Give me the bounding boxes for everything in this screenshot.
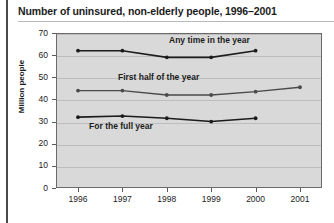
- y-tick-label: 30: [22, 116, 48, 126]
- chart-title: Number of uninsured, non-elderly people,…: [18, 5, 277, 17]
- y-tick-mark: [52, 144, 56, 145]
- x-tick-label: 1999: [191, 194, 231, 204]
- y-tick-label: 0: [22, 183, 48, 193]
- series-label: Any time in the year: [169, 35, 250, 45]
- series-data-point: [209, 93, 213, 97]
- y-tick-label: 50: [22, 72, 48, 82]
- series-data-point: [165, 55, 169, 59]
- series-data-point: [209, 120, 213, 124]
- x-tick-mark: [78, 188, 79, 192]
- x-tick-mark: [211, 188, 212, 192]
- series-data-point: [165, 116, 169, 120]
- series-lines-layer: [56, 33, 322, 188]
- y-tick-mark: [52, 99, 56, 100]
- title-divider: [18, 21, 334, 22]
- series-label: First half of the year: [118, 72, 199, 82]
- y-tick-label: 70: [22, 28, 48, 38]
- x-tick-label: 1997: [102, 194, 142, 204]
- left-margin-rule: [6, 0, 8, 223]
- x-tick-label: 1996: [58, 194, 98, 204]
- series-data-point: [254, 116, 258, 120]
- y-tick-label: 20: [22, 138, 48, 148]
- series-data-point: [165, 93, 169, 97]
- x-tick-mark: [300, 188, 301, 192]
- x-tick-mark: [167, 188, 168, 192]
- series-data-point: [76, 89, 80, 93]
- series-data-point: [121, 114, 125, 118]
- x-tick-mark: [256, 188, 257, 192]
- series-data-point: [76, 49, 80, 53]
- y-tick-mark: [52, 122, 56, 123]
- y-tick-mark: [52, 77, 56, 78]
- x-tick-label: 2000: [236, 194, 276, 204]
- y-tick-mark: [52, 188, 56, 189]
- series-data-point: [209, 55, 213, 59]
- series-data-point: [76, 115, 80, 119]
- series-label: For the full year: [89, 121, 153, 131]
- y-tick-label: 60: [22, 50, 48, 60]
- series-data-point: [121, 49, 125, 53]
- series-data-point: [121, 89, 125, 93]
- chart-figure: Number of uninsured, non-elderly people,…: [0, 0, 334, 223]
- series-data-point: [254, 90, 258, 94]
- x-tick-label: 2001: [280, 194, 320, 204]
- x-tick-mark: [122, 188, 123, 192]
- series-line: [78, 87, 300, 95]
- y-tick-mark: [52, 55, 56, 56]
- y-tick-label: 10: [22, 160, 48, 170]
- y-tick-label: 40: [22, 94, 48, 104]
- y-tick-mark: [52, 33, 56, 34]
- y-tick-mark: [52, 166, 56, 167]
- series-data-point: [254, 49, 258, 53]
- x-tick-label: 1998: [147, 194, 187, 204]
- series-data-point: [298, 85, 302, 89]
